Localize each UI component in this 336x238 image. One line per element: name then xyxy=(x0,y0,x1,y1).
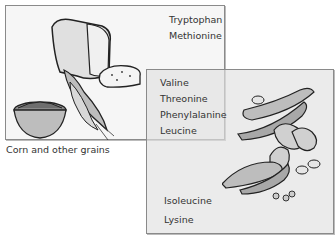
amino-acid-label: Tryptophan xyxy=(169,12,222,28)
legumes-amino-acid-list-top: Valine Threonine Phenylalanine Leucine xyxy=(160,75,227,139)
amino-acid-label: Phenylalanine xyxy=(160,107,227,123)
grains-caption: Corn and other grains xyxy=(6,144,110,155)
amino-acid-label: Methionine xyxy=(169,28,222,44)
amino-acid-label: Leucine xyxy=(160,123,227,139)
amino-acid-label: Isoleucine xyxy=(164,191,212,210)
grains-amino-acid-list: Tryptophan Methionine xyxy=(169,12,222,44)
grains-illustration-icon xyxy=(12,12,162,142)
amino-acid-label: Valine xyxy=(160,75,227,91)
amino-acid-label: Lysine xyxy=(164,210,212,229)
legumes-illustration-icon xyxy=(222,72,332,212)
amino-acid-label: Threonine xyxy=(160,91,227,107)
legumes-amino-acid-list-bottom: Isoleucine Lysine xyxy=(164,191,212,229)
